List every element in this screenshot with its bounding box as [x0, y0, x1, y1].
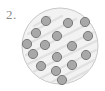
figure-container: 2.	[0, 0, 105, 91]
particle-6	[83, 31, 92, 40]
particle-9	[67, 41, 76, 50]
particle-8	[40, 40, 49, 49]
particle-11	[52, 52, 61, 61]
particle-16	[57, 75, 66, 84]
particle-12	[81, 50, 90, 59]
particle-10	[28, 49, 37, 58]
particle-4	[31, 28, 40, 37]
diagram-canvas	[0, 0, 105, 91]
particle-2	[63, 18, 72, 27]
particle-7	[22, 39, 31, 48]
particle-14	[67, 60, 76, 69]
particle-1	[41, 16, 50, 25]
particle-13	[36, 61, 45, 70]
particle-3	[80, 17, 89, 26]
particle-15	[51, 66, 60, 75]
particle-5	[52, 31, 61, 40]
